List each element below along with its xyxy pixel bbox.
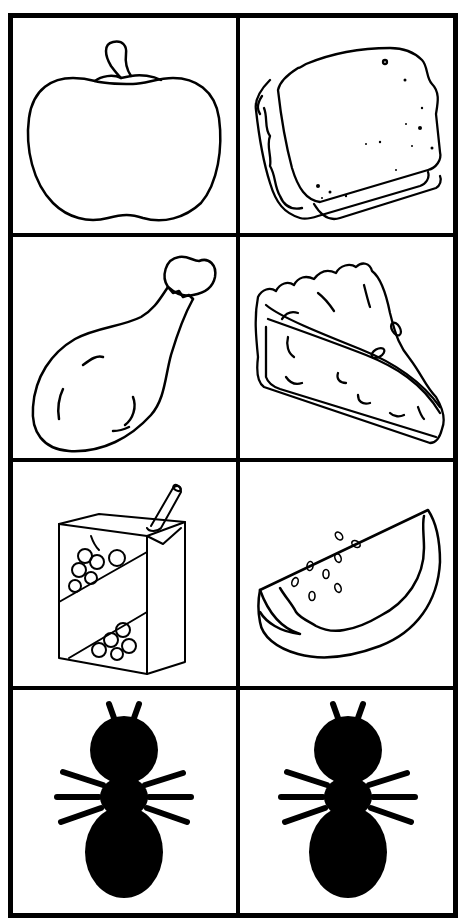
cell-apple: Apple bbox=[13, 18, 236, 233]
sandwich-icon bbox=[240, 18, 458, 233]
drumstick-icon bbox=[13, 237, 236, 458]
ant-icon bbox=[13, 690, 236, 913]
cell-juice-box: Grape juice box bbox=[13, 462, 236, 686]
cell-pie: Pie slice bbox=[240, 237, 458, 458]
apple-icon bbox=[13, 18, 236, 233]
juice-box-icon bbox=[13, 462, 236, 686]
picnic-picture-grid: Apple Sandwich bbox=[8, 13, 458, 918]
cell-watermelon: Watermelon slice bbox=[240, 462, 458, 686]
cell-ant-left: Ant bbox=[13, 690, 236, 913]
cell-sandwich: Sandwich bbox=[240, 18, 458, 233]
cell-drumstick: Chicken drumstick bbox=[13, 237, 236, 458]
watermelon-icon bbox=[240, 462, 458, 686]
cell-ant-right: Ant bbox=[240, 690, 458, 913]
ant-icon bbox=[240, 690, 458, 913]
pie-icon bbox=[240, 237, 458, 458]
